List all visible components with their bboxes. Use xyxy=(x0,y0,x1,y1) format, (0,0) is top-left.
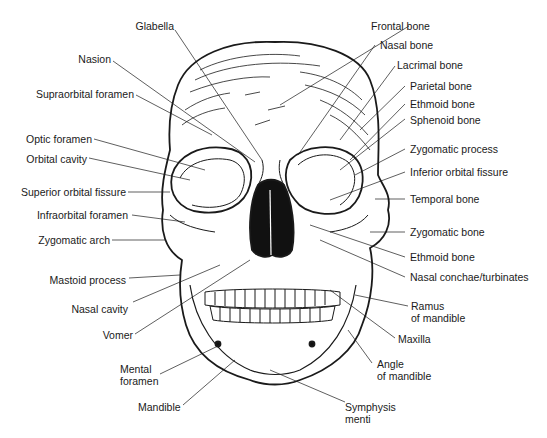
label-ethmoid-bone-upper: Ethmoid bone xyxy=(410,98,475,110)
label-zygomatic-process: Zygomatic process xyxy=(410,143,498,155)
label-temporal-bone: Temporal bone xyxy=(410,193,479,205)
right-orbit xyxy=(286,147,363,214)
label-zygomatic-arch: Zygomatic arch xyxy=(38,234,110,246)
label-mastoid-process: Mastoid process xyxy=(50,274,126,286)
label-parietal-bone: Parietal bone xyxy=(410,80,472,92)
label-supraorbital-foramen: Supraorbital foramen xyxy=(36,88,134,100)
label-inferior-orbital-fissure: Inferior orbital fissure xyxy=(410,166,508,178)
label-lacrimal-bone: Lacrimal bone xyxy=(397,59,463,71)
label-nasal-bone: Nasal bone xyxy=(380,39,433,51)
nasal-aperture xyxy=(250,180,294,257)
label-orbital-cavity: Orbital cavity xyxy=(26,153,87,165)
label-ramus-of-mandible: Ramus of mandible xyxy=(411,300,465,324)
label-infraorbital-foramen: Infraorbital foramen xyxy=(37,209,128,221)
label-glabella: Glabella xyxy=(135,20,174,32)
label-optic-foramen: Optic foramen xyxy=(26,133,92,145)
label-zygomatic-bone: Zygomatic bone xyxy=(410,226,485,238)
label-symphysis-menti: Symphysis menti xyxy=(345,401,396,425)
label-mental-foramen: Mental foramen xyxy=(120,363,159,387)
label-maxilla: Maxilla xyxy=(398,333,431,345)
label-sphenoid-bone: Sphenoid bone xyxy=(410,114,481,126)
lower-teeth xyxy=(210,306,335,323)
label-nasion: Nasion xyxy=(78,53,111,65)
left-orbit xyxy=(171,147,251,212)
label-nasal-cavity: Nasal cavity xyxy=(71,303,128,315)
label-angle-of-mandible: Angle of mandible xyxy=(377,358,431,382)
label-vomer: Vomer xyxy=(103,329,133,341)
label-frontal-bone: Frontal bone xyxy=(371,20,430,32)
label-ethmoid-bone-lower: Ethmoid bone xyxy=(410,251,475,263)
label-mandible: Mandible xyxy=(138,401,181,413)
label-nasal-conchae: Nasal conchae/turbinates xyxy=(410,271,529,283)
label-superior-orbital-fissure: Superior orbital fissure xyxy=(21,186,126,198)
